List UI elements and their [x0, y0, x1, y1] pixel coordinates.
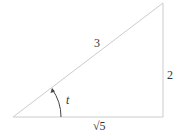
opposite-label: 2 — [167, 68, 173, 82]
hypotenuse-side — [13, 3, 163, 117]
angle-label: t — [66, 93, 70, 107]
angle-arc — [52, 89, 61, 117]
right-triangle-diagram: 3 2 √5 t — [0, 0, 175, 136]
adjacent-label: √5 — [93, 119, 106, 133]
hypotenuse-label: 3 — [94, 36, 100, 50]
